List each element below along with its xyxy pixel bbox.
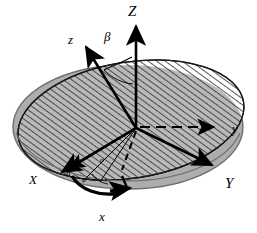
label-angle-phi: φ bbox=[82, 177, 86, 184]
label-angle-gamma: γ bbox=[105, 176, 108, 183]
label-angle-alpha: α bbox=[100, 157, 104, 164]
diagram-svg bbox=[0, 0, 257, 233]
label-axis-X: X bbox=[29, 173, 37, 186]
label-angle-beta: β bbox=[104, 30, 110, 43]
label-node-n: n bbox=[66, 169, 71, 178]
label-axis-z: z bbox=[68, 33, 73, 46]
label-axis-x: x bbox=[99, 210, 105, 223]
label-axis-Z: Z bbox=[128, 4, 136, 19]
figure-canvas: Z z β y Y X x n φ γ α bbox=[0, 0, 257, 233]
label-axis-Y: Y bbox=[225, 176, 233, 191]
label-axis-y: y bbox=[232, 122, 238, 135]
